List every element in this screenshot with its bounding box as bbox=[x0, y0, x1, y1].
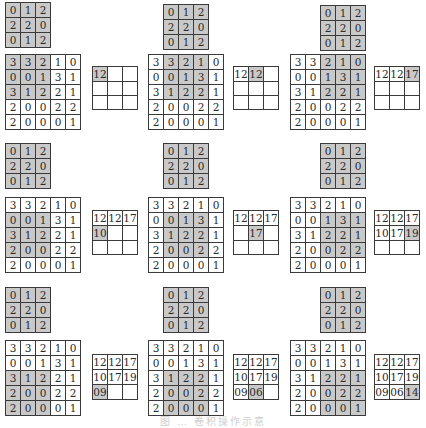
output-cell: 17 bbox=[264, 211, 279, 226]
input-cell: 0 bbox=[306, 115, 321, 130]
input-cell: 1 bbox=[209, 70, 224, 85]
output-cell bbox=[123, 241, 138, 255]
input-cell: 0 bbox=[36, 100, 51, 115]
kernel-cell: 2 bbox=[194, 34, 209, 49]
input-cell: 0 bbox=[291, 70, 306, 85]
output-cell bbox=[93, 82, 108, 96]
input-cell: 3 bbox=[306, 198, 321, 213]
input-cell: 0 bbox=[164, 356, 179, 371]
input-cell: 0 bbox=[6, 70, 21, 85]
input-cell: 0 bbox=[351, 55, 366, 70]
output-cell: 10 bbox=[93, 226, 108, 241]
input-cell: 2 bbox=[179, 55, 194, 70]
input-cell: 2 bbox=[209, 100, 224, 115]
input-cell: 2 bbox=[291, 258, 306, 273]
kernel-cell: 0 bbox=[321, 144, 336, 159]
input-cell: 1 bbox=[66, 115, 81, 130]
kernel-cell: 1 bbox=[179, 4, 194, 19]
output-cell: 09 bbox=[234, 385, 249, 400]
input-grid: 3321000131312212002220001 bbox=[148, 197, 224, 273]
input-cell: 0 bbox=[164, 258, 179, 273]
output-cell bbox=[264, 385, 279, 400]
input-cell: 3 bbox=[336, 70, 351, 85]
input-cell: 1 bbox=[179, 356, 194, 371]
input-cell: 0 bbox=[21, 115, 36, 130]
kernel-cell: 2 bbox=[21, 18, 36, 33]
input-cell: 2 bbox=[209, 243, 224, 258]
output-cell bbox=[123, 67, 138, 82]
output-cell bbox=[264, 241, 279, 255]
input-cell: 0 bbox=[6, 356, 21, 371]
output-cell: 06 bbox=[390, 385, 405, 400]
kernel-cell: 2 bbox=[351, 288, 366, 303]
output-cell bbox=[405, 82, 420, 96]
input-grid: 3321000131312212002220001 bbox=[148, 54, 224, 130]
output-cell bbox=[93, 241, 108, 255]
input-cell: 3 bbox=[291, 228, 306, 243]
input-cell: 3 bbox=[291, 198, 306, 213]
input-cell: 2 bbox=[291, 386, 306, 401]
output-cell: 10 bbox=[375, 226, 390, 241]
output-cell: 17 bbox=[264, 355, 279, 370]
input-cell: 0 bbox=[66, 341, 81, 356]
input-cell: 1 bbox=[351, 115, 366, 130]
input-cell: 1 bbox=[36, 70, 51, 85]
input-cell: 1 bbox=[179, 213, 194, 228]
input-cell: 3 bbox=[194, 70, 209, 85]
input-cell: 0 bbox=[164, 70, 179, 85]
input-cell: 3 bbox=[291, 341, 306, 356]
output-cell bbox=[108, 96, 123, 110]
input-cell: 2 bbox=[321, 85, 336, 100]
input-cell: 0 bbox=[351, 198, 366, 213]
output-cell: 12 bbox=[390, 355, 405, 370]
input-cell: 2 bbox=[291, 243, 306, 258]
input-cell: 2 bbox=[194, 371, 209, 386]
input-cell: 2 bbox=[149, 243, 164, 258]
output-cell: 19 bbox=[405, 226, 420, 241]
input-cell: 2 bbox=[291, 100, 306, 115]
input-cell: 3 bbox=[164, 341, 179, 356]
output-cell bbox=[234, 226, 249, 241]
input-cell: 0 bbox=[51, 115, 66, 130]
input-cell: 1 bbox=[306, 371, 321, 386]
input-cell: 3 bbox=[306, 341, 321, 356]
input-cell: 0 bbox=[36, 243, 51, 258]
kernel-cell: 0 bbox=[351, 21, 366, 36]
kernel-cell: 2 bbox=[36, 288, 51, 303]
input-cell: 0 bbox=[149, 70, 164, 85]
kernel-grid: 012220012 bbox=[320, 5, 366, 51]
output-cell: 12 bbox=[390, 67, 405, 82]
input-cell: 1 bbox=[321, 356, 336, 371]
input-cell: 0 bbox=[321, 258, 336, 273]
output-cell bbox=[249, 82, 264, 96]
input-cell: 1 bbox=[336, 198, 351, 213]
kernel-cell: 2 bbox=[179, 19, 194, 34]
kernel-cell: 0 bbox=[6, 318, 21, 333]
input-cell: 0 bbox=[306, 213, 321, 228]
input-cell: 1 bbox=[209, 258, 224, 273]
output-cell: 09 bbox=[375, 385, 390, 400]
output-grid: 1212 bbox=[233, 66, 279, 110]
input-grid: 3321000131312212002220001 bbox=[148, 340, 224, 416]
kernel-cell: 2 bbox=[21, 159, 36, 174]
input-cell: 0 bbox=[164, 115, 179, 130]
input-cell: 2 bbox=[36, 198, 51, 213]
kernel-cell: 0 bbox=[164, 174, 179, 189]
output-cell: 17 bbox=[123, 211, 138, 226]
input-cell: 1 bbox=[336, 55, 351, 70]
kernel-cell: 1 bbox=[179, 288, 194, 303]
output-cell bbox=[123, 96, 138, 110]
input-cell: 0 bbox=[321, 243, 336, 258]
kernel-cell: 1 bbox=[179, 144, 194, 159]
input-cell: 1 bbox=[209, 228, 224, 243]
input-cell: 2 bbox=[179, 198, 194, 213]
input-cell: 0 bbox=[21, 70, 36, 85]
input-cell: 3 bbox=[149, 371, 164, 386]
input-cell: 2 bbox=[149, 258, 164, 273]
kernel-cell: 1 bbox=[336, 144, 351, 159]
output-cell bbox=[123, 82, 138, 96]
output-grid: 12121710 bbox=[92, 210, 138, 255]
input-cell: 2 bbox=[351, 100, 366, 115]
input-cell: 0 bbox=[306, 70, 321, 85]
output-cell bbox=[108, 385, 123, 400]
